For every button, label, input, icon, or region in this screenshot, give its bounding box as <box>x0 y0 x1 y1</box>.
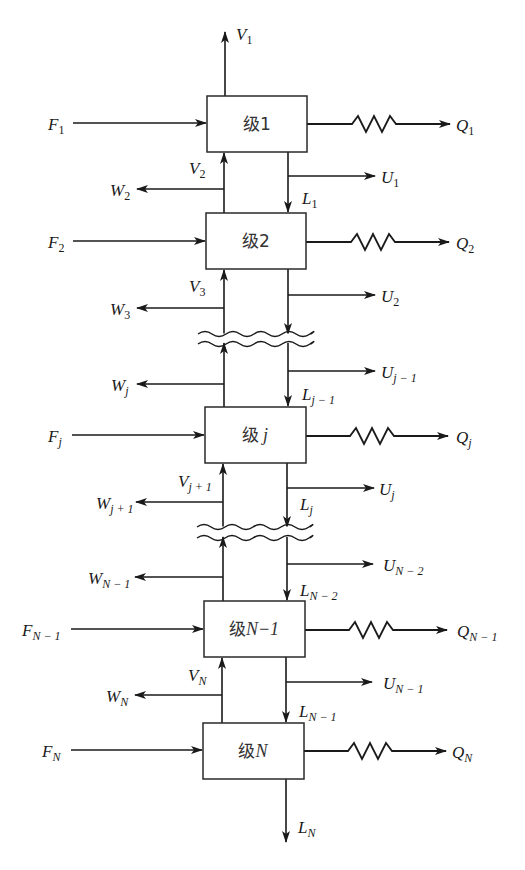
label-u-n-minus-1: UN − 1 <box>383 674 423 696</box>
column-break-1 <box>198 332 314 347</box>
stage-label: 级N <box>238 741 268 761</box>
label-lj: Lj <box>299 495 313 517</box>
label-w3: W3 <box>110 300 130 322</box>
label-u2: U2 <box>381 287 399 309</box>
label-l-n-minus-1: LN − 1 <box>298 702 337 724</box>
label-qn: QN <box>452 743 473 765</box>
label-wj: Wj <box>111 376 129 398</box>
stage-j: 级j <box>205 407 306 463</box>
label-v1: V1 <box>236 25 252 47</box>
multistage-separation-diagram: 级1 级2 级j 级N−1 级N V1 F1 Q1 V2 W2 U1 L1 F2… <box>0 0 525 870</box>
label-v-j-plus-1: Vj + 1 <box>178 472 212 494</box>
heat-duties <box>304 116 450 759</box>
label-w-n-minus-1: WN − 1 <box>88 569 130 591</box>
label-q-n-minus-1: QN − 1 <box>457 622 497 644</box>
label-q2: Q2 <box>456 234 474 256</box>
stage-label: 级2 <box>242 231 270 251</box>
label-fj: Fj <box>47 427 62 449</box>
stage-1: 级1 <box>207 96 307 152</box>
column-break-2 <box>197 525 313 541</box>
stage-label: 级1 <box>243 114 271 134</box>
heat-q1-icon <box>307 116 450 132</box>
label-vn: VN <box>188 666 207 688</box>
stage-n: 级N <box>203 723 304 779</box>
label-f2: F2 <box>47 233 64 255</box>
heat-qj-icon <box>306 428 448 444</box>
label-v3: V3 <box>189 277 205 299</box>
label-q1: Q1 <box>456 116 474 138</box>
label-l-j-minus-1: Lj − 1 <box>301 385 335 407</box>
label-w2: W2 <box>110 181 130 203</box>
label-f-n-minus-1: FN − 1 <box>21 621 61 643</box>
label-u-n-minus-2: UN − 2 <box>383 556 423 578</box>
label-fn: FN <box>41 742 61 764</box>
label-qj: Qj <box>456 428 472 450</box>
label-v2: V2 <box>189 159 205 181</box>
stage-n-1: 级N−1 <box>204 601 305 657</box>
heat-q2-icon <box>306 234 449 250</box>
stage-2: 级2 <box>206 213 306 269</box>
label-ln: LN <box>297 818 316 840</box>
label-u-j-minus-1: Uj − 1 <box>381 363 417 385</box>
label-wn: WN <box>106 687 129 709</box>
heat-qn1-icon <box>305 622 447 638</box>
label-w-j-plus-1: Wj + 1 <box>96 494 134 516</box>
stage-label: 级j <box>242 425 268 445</box>
label-f1: F1 <box>47 115 64 137</box>
stage-label: 级N−1 <box>229 619 279 639</box>
heat-qn-icon <box>304 743 446 759</box>
label-uj: Uj <box>379 480 395 502</box>
label-l-n-minus-2: LN − 2 <box>299 581 338 603</box>
label-u1: U1 <box>381 168 399 190</box>
label-l1: L1 <box>301 189 317 211</box>
feed-streams <box>71 123 206 750</box>
